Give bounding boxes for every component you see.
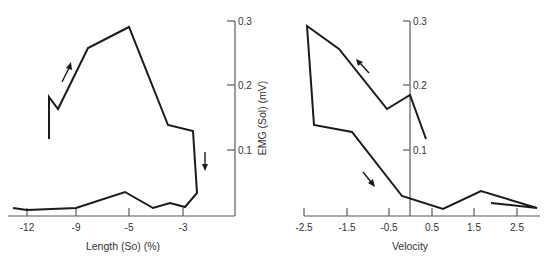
left-chart: -12 -9 -5 -3 0.3 0.2 0.1 Length (So) (%)… [8, 16, 268, 252]
figure-canvas: -12 -9 -5 -3 0.3 0.2 0.1 Length (So) (%)… [0, 0, 551, 257]
left-y-tick-label: 0.2 [238, 80, 252, 91]
left-x-tick-label: -5 [125, 222, 134, 233]
right-emg-velocity-curve [307, 26, 537, 209]
left-emg-length-curve [13, 27, 197, 210]
arrow-down-right-icon [363, 172, 375, 187]
right-y-tick-label: 0.3 [413, 16, 427, 27]
left-y-tick-label: 0.1 [238, 145, 252, 156]
right-x-tick-label: -2.5 [295, 222, 313, 233]
right-x-tick-label: 2.5 [510, 222, 524, 233]
right-x-tick-label: -0.5 [380, 222, 398, 233]
right-y-tick-label: 0.1 [413, 145, 427, 156]
left-y-tick-label: 0.3 [238, 16, 252, 27]
right-x-tick-label: 1.5 [467, 222, 481, 233]
right-chart: -2.5 -1.5 -0.5 0.5 1.5 2.5 0.3 0.2 0.1 V… [295, 16, 540, 252]
left-x-tick-label: -12 [20, 222, 35, 233]
arrow-up-left-icon [356, 59, 369, 73]
right-x-axis-title: Velocity [392, 240, 429, 252]
right-y-tick-label: 0.2 [413, 80, 427, 91]
left-x-tick-label: -3 [179, 222, 188, 233]
right-x-tick-label: -1.5 [338, 222, 356, 233]
right-x-tick-label: 0.5 [425, 222, 439, 233]
right-y-ticks [403, 21, 410, 150]
left-y-axis-title: EMG (Sol) (mV) [256, 81, 268, 156]
arrow-down-icon [202, 152, 208, 171]
left-x-tick-label: -9 [72, 222, 81, 233]
left-x-axis-title: Length (So) (%) [86, 240, 160, 252]
arrow-up-right-icon [62, 62, 72, 82]
left-y-ticks [227, 21, 235, 150]
